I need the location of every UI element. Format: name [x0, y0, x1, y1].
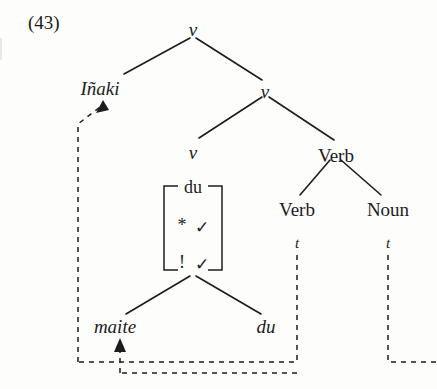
feature-diacritic-star: * — [178, 215, 187, 235]
tree-branches — [124, 38, 381, 314]
branch-midv-to-verb — [269, 97, 334, 140]
movement-arrowhead-maite — [114, 338, 126, 352]
branch-root-to-subject — [124, 38, 190, 74]
node-verb-lower: Verb — [279, 199, 315, 220]
node-mid-v: v — [261, 81, 270, 102]
syntax-tree-figure: v Iñaki v v Verb Verb Noun t t maite du … — [0, 0, 437, 389]
node-trace-verb: t — [295, 235, 300, 251]
bracket-left — [164, 186, 178, 270]
terminal-du: du — [257, 316, 276, 337]
example-number: (43) — [28, 12, 60, 34]
movement-path-verb-trace — [78, 255, 297, 362]
node-verb-upper: Verb — [318, 145, 354, 166]
bracket-right — [208, 186, 222, 270]
branch-root-to-mid-v — [196, 38, 262, 80]
feature-matrix-row-2: ! ✓ — [179, 252, 209, 274]
movement-arrowhead-subject — [96, 100, 109, 113]
feature-check-bang: ✓ — [195, 254, 209, 274]
feature-diacritic-bang: ! — [179, 252, 185, 272]
syntax-tree-diagram: v Iñaki v v Verb Verb Noun t t maite du … — [0, 0, 437, 389]
branch-matrix-to-maite — [126, 276, 190, 314]
feature-matrix-row-1: * ✓ — [178, 215, 210, 237]
branch-midv-to-lowv — [199, 97, 262, 138]
node-noun: Noun — [367, 199, 410, 220]
terminal-maite: maite — [94, 316, 136, 337]
branch-matrix-to-du — [196, 276, 261, 314]
node-subject-inaki: Iñaki — [79, 78, 119, 99]
feature-matrix-head: du — [184, 177, 202, 197]
node-trace-noun: t — [386, 235, 391, 251]
feature-matrix-bracket — [164, 186, 222, 270]
node-low-v: v — [189, 142, 198, 163]
feature-check-star: ✓ — [195, 217, 209, 237]
movement-path-noun-trace — [388, 255, 437, 362]
node-root-v: v — [189, 19, 198, 40]
